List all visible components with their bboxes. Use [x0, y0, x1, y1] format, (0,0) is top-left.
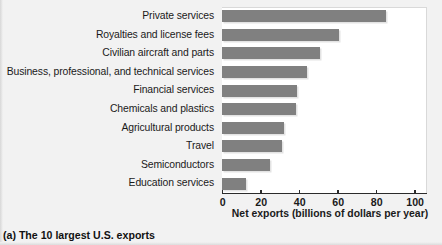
x-axis-tick-label: 100 [406, 196, 424, 208]
x-axis-tick-label: 0 [220, 196, 226, 208]
x-axis-line [222, 193, 427, 194]
category-label: Civilian aircraft and parts [102, 44, 214, 63]
category-label: Business, professional, and technical se… [7, 63, 214, 82]
bar-row [222, 26, 426, 45]
figure-the-10-largest-us-exports: Private services Royalties and license f… [0, 0, 442, 245]
bar-royalties-and-license-fees [222, 29, 339, 41]
bar-row [222, 44, 426, 63]
bar-private-services [222, 10, 386, 22]
bar-business-professional-and-technical-services [222, 66, 307, 78]
category-axis-labels: Private services Royalties and license f… [0, 7, 218, 193]
bar-chemicals-and-plastics [222, 103, 296, 115]
bar-row [222, 156, 426, 175]
bars-layer [222, 7, 426, 193]
bar-semiconductors [222, 159, 270, 171]
x-axis-tick-label: 80 [371, 196, 383, 208]
bar-row [222, 63, 426, 82]
category-label: Royalties and license fees [96, 26, 214, 45]
category-label: Travel [186, 137, 214, 156]
bar-row [222, 81, 426, 100]
category-label: Financial services [133, 81, 214, 100]
x-axis-tick-label: 60 [332, 196, 344, 208]
x-axis-title: Net exports (billions of dollars per yea… [222, 208, 438, 219]
category-label: Agricultural products [121, 119, 214, 138]
bar-row [222, 7, 426, 26]
x-axis-tick [299, 190, 300, 195]
x-axis-tick [222, 190, 223, 195]
category-label: Education services [129, 174, 214, 193]
x-axis-tick [376, 190, 377, 195]
category-label: Private services [142, 7, 214, 26]
x-axis-tick [337, 190, 338, 195]
bar-row [222, 137, 426, 156]
x-axis-tick-label: 40 [294, 196, 306, 208]
bar-education-services [222, 178, 246, 190]
bar-civilian-aircraft-and-parts [222, 47, 320, 59]
category-label: Chemicals and plastics [110, 100, 214, 119]
bar-financial-services [222, 85, 297, 97]
bar-agricultural-products [222, 122, 284, 134]
x-axis-tick [260, 190, 261, 195]
figure-caption: (a) The 10 largest U.S. exports [3, 229, 155, 241]
x-axis-tick-label: 20 [255, 196, 267, 208]
x-axis-tick [414, 190, 415, 195]
bar-travel [222, 140, 282, 152]
bar-row [222, 119, 426, 138]
bar-row [222, 174, 426, 193]
bar-row [222, 100, 426, 119]
category-label: Semiconductors [141, 156, 214, 175]
